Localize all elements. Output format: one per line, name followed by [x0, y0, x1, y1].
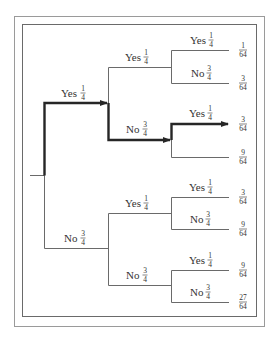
svg-text:No: No [191, 67, 205, 79]
svg-text:1: 1 [81, 84, 85, 93]
svg-text:Yes: Yes [125, 197, 141, 209]
branch-label-l3-4: Yes 1 4 [189, 178, 213, 196]
branch-label-l1-yes: Yes 1 4 [61, 84, 86, 102]
outer-border [15, 17, 265, 327]
branch-label-l1-no: No 3 4 [64, 229, 86, 247]
svg-text:3: 3 [143, 266, 147, 275]
svg-text:64: 64 [239, 124, 247, 133]
svg-text:3: 3 [143, 120, 147, 129]
branch-label-l2-3: No 3 4 [126, 266, 148, 284]
svg-text:9: 9 [241, 261, 245, 270]
svg-text:4: 4 [143, 275, 147, 284]
svg-text:Yes: Yes [61, 87, 77, 99]
svg-text:64: 64 [239, 197, 247, 206]
branch-label-l3-2: Yes 1 4 [189, 104, 213, 122]
svg-text:4: 4 [208, 113, 212, 122]
svg-text:1: 1 [208, 104, 212, 113]
branch-label-l3-1: No 3 4 [191, 64, 212, 82]
svg-text:1: 1 [208, 251, 212, 260]
svg-text:3: 3 [241, 115, 245, 124]
svg-text:27: 27 [239, 293, 247, 302]
svg-text:64: 64 [239, 270, 247, 279]
svg-text:1: 1 [144, 194, 148, 203]
svg-text:64: 64 [239, 50, 247, 59]
leaf-prob-4: 3 64 [239, 188, 247, 206]
svg-text:No: No [64, 232, 78, 244]
branch-label-l2-2: Yes 1 4 [125, 194, 149, 212]
svg-text:4: 4 [144, 57, 148, 66]
level2-lower-branches [109, 214, 172, 286]
svg-text:No: No [190, 286, 204, 298]
svg-text:No: No [126, 123, 140, 135]
inner-border [23, 25, 257, 317]
svg-text:Yes: Yes [190, 34, 206, 46]
svg-text:1: 1 [241, 41, 245, 50]
leaf-prob-6: 9 64 [239, 261, 247, 279]
svg-text:4: 4 [81, 93, 85, 102]
branch-label-l3-0: Yes 1 4 [190, 31, 214, 49]
branch-label-l2-0: Yes 1 4 [125, 48, 149, 66]
svg-text:3: 3 [207, 64, 211, 73]
leaf-prob-1: 3 64 [239, 74, 247, 92]
svg-text:3: 3 [206, 210, 210, 219]
svg-text:4: 4 [208, 260, 212, 269]
svg-text:4: 4 [206, 292, 210, 301]
svg-text:No: No [126, 269, 140, 281]
svg-text:4: 4 [209, 40, 213, 49]
svg-text:4: 4 [207, 73, 211, 82]
leaf-prob-2: 3 64 [239, 115, 247, 133]
svg-text:9: 9 [241, 220, 245, 229]
svg-text:Yes: Yes [189, 107, 205, 119]
tree-diagram: Yes 1 4 No 3 4 Yes 1 4 No 3 4 Yes 1 4 No… [0, 0, 276, 342]
svg-text:1: 1 [208, 178, 212, 187]
level2-upper-branches [109, 68, 172, 141]
svg-text:1: 1 [144, 48, 148, 57]
leaf-prob-7: 27 64 [239, 293, 247, 311]
level1-branches [45, 103, 109, 249]
svg-text:9: 9 [241, 148, 245, 157]
leaf-prob-3: 9 64 [239, 148, 247, 166]
svg-text:64: 64 [239, 83, 247, 92]
leaf-prob-0: 1 64 [239, 41, 247, 59]
svg-text:3: 3 [206, 283, 210, 292]
leaf-prob-5: 9 64 [239, 220, 247, 238]
svg-text:4: 4 [144, 203, 148, 212]
svg-text:64: 64 [239, 157, 247, 166]
branch-label-l3-7: No 3 4 [190, 283, 211, 301]
svg-text:Yes: Yes [189, 181, 205, 193]
svg-text:4: 4 [143, 129, 147, 138]
svg-text:1: 1 [209, 31, 213, 40]
svg-text:Yes: Yes [189, 254, 205, 266]
svg-text:No: No [190, 213, 204, 225]
branch-label-l2-1: No 3 4 [126, 120, 148, 138]
svg-text:4: 4 [81, 238, 85, 247]
svg-text:3: 3 [241, 74, 245, 83]
svg-text:3: 3 [241, 188, 245, 197]
svg-text:4: 4 [208, 187, 212, 196]
svg-text:4: 4 [206, 219, 210, 228]
svg-text:Yes: Yes [125, 51, 141, 63]
svg-text:64: 64 [239, 302, 247, 311]
branch-label-l3-5: No 3 4 [190, 210, 211, 228]
svg-text:64: 64 [239, 229, 247, 238]
branch-label-l3-6: Yes 1 4 [189, 251, 213, 269]
svg-text:3: 3 [81, 229, 85, 238]
